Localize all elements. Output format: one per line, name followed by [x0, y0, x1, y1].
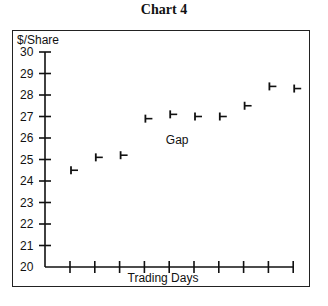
- y-tick-label: 21: [20, 239, 34, 253]
- data-marker: [170, 110, 177, 118]
- data-markers: [71, 82, 301, 174]
- data-marker: [121, 151, 128, 159]
- data-marker: [195, 113, 202, 121]
- annotations: Gap: [166, 133, 189, 147]
- data-marker: [145, 115, 152, 123]
- y-axis-ticks: 2021222324252627282930: [20, 45, 51, 274]
- y-tick-label: 27: [20, 110, 34, 124]
- y-tick-label: 29: [20, 67, 34, 81]
- y-tick-label: 26: [20, 131, 34, 145]
- y-tick-label: 22: [20, 217, 34, 231]
- x-axis-label: Trading Days: [128, 271, 199, 285]
- data-marker: [96, 153, 103, 161]
- axes: [45, 52, 293, 267]
- data-marker: [245, 102, 252, 110]
- y-tick-label: 23: [20, 196, 34, 210]
- y-tick-label: 30: [20, 45, 34, 59]
- y-tick-label: 25: [20, 153, 34, 167]
- gap-annotation: Gap: [166, 133, 189, 147]
- data-marker: [220, 113, 227, 121]
- y-tick-label: 24: [20, 174, 34, 188]
- chart-plot: $/Share 2021222324252627282930 Trading D…: [0, 0, 328, 306]
- y-tick-label: 28: [20, 88, 34, 102]
- data-marker: [269, 82, 276, 90]
- data-marker: [71, 166, 78, 174]
- data-marker: [294, 85, 301, 93]
- y-tick-label: 20: [20, 260, 34, 274]
